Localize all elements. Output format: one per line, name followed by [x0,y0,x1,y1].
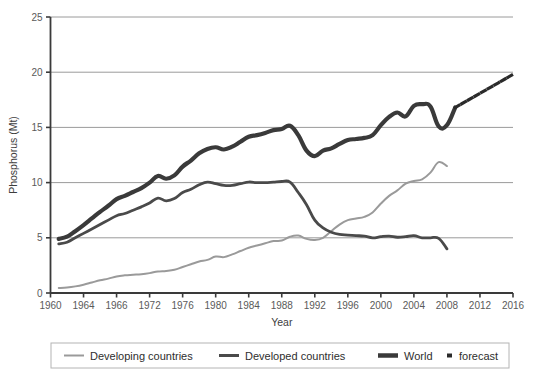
phosphorus-line-chart: 0510152025 19601964196619721976198019841… [0,0,540,375]
x-tick-label-2016: 2016 [502,300,525,311]
x-tick-label-1976: 1976 [172,300,195,311]
legend-label-developed-countries: Developed countries [245,350,346,362]
legend-label-developing-countries: Developing countries [90,350,193,362]
x-tick-label-2004: 2004 [403,300,426,311]
y-tick-label-25: 25 [31,12,43,23]
x-tick-label-1968: 1966 [105,300,128,311]
legend-label-forecast: forecast [459,350,498,362]
x-tick-label-1964: 1964 [72,300,95,311]
y-tick-label-20: 20 [31,67,43,78]
y-axis-title: Phosphorus (Mt) [7,116,19,194]
y-tick-label-15: 15 [31,122,43,133]
y-tick-label-0: 0 [37,288,43,299]
x-axis-title: Year [271,316,293,328]
x-tick-label-2000: 2000 [370,300,393,311]
x-tick-label-2012: 2012 [469,300,492,311]
y-tick-label-5: 5 [37,232,43,243]
x-tick-label-1984: 1984 [238,300,261,311]
x-tick-label-2008: 2008 [436,300,459,311]
x-tick-label-1980: 1980 [205,300,228,311]
x-tick-label-1960: 1960 [39,300,62,311]
chart-legend: Developing countriesDeveloped countriesW… [51,343,509,368]
chart-page: 0510152025 19601964196619721976198019841… [0,0,540,375]
legend-label-world: World [404,350,433,362]
x-tick-label-1988: 1988 [271,300,294,311]
x-tick-label-1992: 1992 [304,300,327,311]
x-tick-label-1996: 1996 [337,300,360,311]
chart-background [0,0,540,375]
y-tick-label-10: 10 [31,177,43,188]
x-tick-label-1972: 1972 [138,300,161,311]
